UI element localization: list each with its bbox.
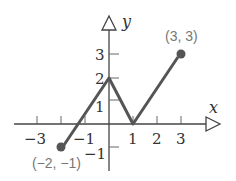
- y-axis-label: y: [121, 12, 132, 31]
- tick-x-3: 3: [176, 130, 186, 148]
- tick-y-2: 2: [95, 70, 105, 88]
- point-label-start: (−2, −1): [32, 155, 81, 171]
- graph: −3 −1 1 2 3 1 2 3 −1 x y (−2, −1) (3, 3): [0, 0, 236, 181]
- x-axis-label: x: [209, 98, 218, 117]
- endpoint-end: [177, 50, 186, 59]
- endpoint-start: [57, 143, 66, 152]
- tick-y-1: 1: [95, 98, 105, 116]
- y-ticks: [109, 54, 119, 147]
- x-axis-arrow-icon: [206, 117, 220, 131]
- tick-y-m1: −1: [84, 145, 106, 163]
- point-label-end: (3, 3): [165, 28, 198, 44]
- tick-x-2: 2: [152, 130, 162, 148]
- y-axis-arrow-icon: [102, 16, 116, 30]
- tick-y-3: 3: [95, 46, 105, 64]
- tick-x-m3: −3: [24, 130, 46, 148]
- tick-x-1: 1: [128, 130, 138, 148]
